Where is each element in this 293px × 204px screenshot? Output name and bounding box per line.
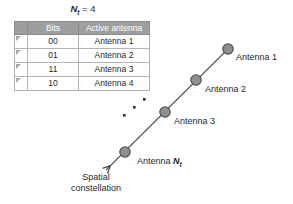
antenna-nt-label-prefix: Antenna [137, 156, 173, 166]
antenna-node-3 [160, 107, 170, 117]
antenna-3-label: Antenna 3 [174, 116, 215, 126]
antenna-nt-subscript: t [180, 161, 182, 168]
figure-root: Nt = 4 Bits Active antenna 00 Antenna 1 … [0, 0, 293, 204]
ellipsis-dot-3 [123, 114, 126, 117]
antenna-node-nt [120, 147, 130, 157]
antenna-1-label: Antenna 1 [236, 52, 277, 62]
spatial-constellation-diagram [0, 0, 293, 204]
ellipsis-dot-1 [143, 98, 146, 101]
antenna-node-2 [191, 75, 201, 85]
antenna-nt-label: Antenna Nt [137, 156, 182, 168]
caption-line-2: constellation [53, 183, 139, 194]
spatial-constellation-caption: Spatial constellation [53, 172, 139, 194]
antenna-2-label: Antenna 2 [205, 84, 246, 94]
antenna-node-1 [223, 44, 233, 54]
ellipsis-dot-2 [133, 106, 136, 109]
caption-line-1: Spatial [53, 172, 139, 183]
